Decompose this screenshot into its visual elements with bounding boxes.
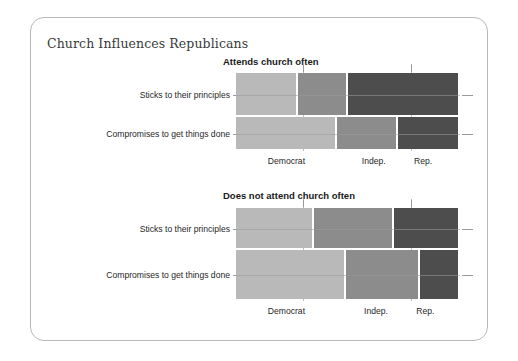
plot-horizontal-guide: [236, 275, 460, 276]
mosaic-tile[interactable]: [348, 73, 458, 115]
mosaic-tile[interactable]: [236, 73, 296, 115]
mosaic-tile[interactable]: [298, 73, 346, 115]
mosaic-tile[interactable]: [346, 250, 418, 299]
mosaic-tile[interactable]: [420, 250, 458, 299]
axis-tick: [303, 200, 304, 207]
plot-horizontal-guide: [236, 229, 460, 230]
axis-tick: [303, 65, 304, 72]
panel-title: Does not attend church often: [223, 190, 355, 201]
mosaic-tile[interactable]: [314, 208, 392, 248]
right-axis-tick: [462, 229, 473, 230]
page-title: Church Influences Republicans: [47, 36, 248, 51]
plot-horizontal-guide: [236, 95, 460, 96]
right-axis-tick: [462, 134, 473, 135]
chart-card: Church Influences Republicans Attends ch…: [30, 17, 488, 341]
column-axis-label: Rep.: [414, 156, 432, 166]
mosaic-tile[interactable]: [236, 250, 344, 299]
panel-title: Attends church often: [223, 56, 319, 67]
mosaic-plot: [236, 73, 460, 151]
mosaic-tile[interactable]: [398, 117, 458, 149]
mosaic-plot: [236, 208, 460, 301]
column-axis-label: Democrat: [268, 306, 305, 316]
plot-horizontal-guide: [236, 134, 460, 135]
column-axis-label: Rep.: [416, 306, 434, 316]
mosaic-tile[interactable]: [236, 117, 335, 149]
row-axis-label: Sticks to their principles: [31, 90, 230, 100]
mosaic-tile[interactable]: [236, 208, 312, 248]
row-axis-label: Sticks to their principles: [31, 224, 230, 234]
axis-tick: [411, 200, 412, 207]
mosaic-tile[interactable]: [394, 208, 458, 248]
row-axis-label: Compromises to get things done: [31, 270, 230, 280]
row-axis-label: Compromises to get things done: [31, 129, 230, 139]
column-axis-label: Democrat: [268, 156, 305, 166]
column-axis-label: Indep.: [362, 156, 386, 166]
mosaic-tile[interactable]: [337, 117, 396, 149]
axis-tick: [411, 65, 412, 72]
column-axis-label: Indep.: [364, 306, 388, 316]
right-axis-tick: [462, 275, 473, 276]
right-axis-tick: [462, 95, 473, 96]
